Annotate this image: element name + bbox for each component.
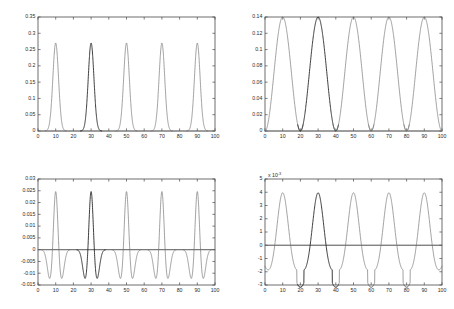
data-curve (77, 192, 105, 279)
y-tick-label: 0.02 (252, 111, 262, 117)
data-curve (183, 192, 211, 279)
y-tick-label: -1 (258, 255, 263, 261)
x-tick-label: 70 (159, 133, 165, 139)
x-tick-label: 10 (53, 287, 59, 293)
x-tick-label: 100 (211, 133, 220, 139)
y-tick-label: 0.025 (22, 187, 35, 193)
x-tick-label: 50 (351, 133, 357, 139)
x-axis: 0102030405060708090100 (37, 17, 220, 139)
y-tick-label: 0.14 (252, 13, 262, 19)
data-curve (151, 43, 172, 131)
y-tick-label: 0.35 (25, 13, 35, 19)
y-tick-label: 0 (33, 246, 36, 252)
y-tick-label: 0.1 (28, 95, 35, 101)
subplot-top-right: 010203040506070809010000.020.040.060.080… (227, 0, 454, 155)
y-tick-label: 0.015 (22, 211, 35, 217)
x-tick-label: 90 (421, 287, 427, 293)
data-series-group (265, 193, 442, 287)
y-axis: -0.015-0.01-0.00500.0050.010.0150.020.02… (21, 175, 215, 287)
axes-frame (265, 179, 442, 285)
y-tick-label: 5 (260, 175, 263, 181)
axes-frame (38, 179, 215, 285)
x-tick-label: 30 (315, 287, 321, 293)
x-tick-label: 80 (404, 133, 410, 139)
x-tick-label: 90 (194, 133, 200, 139)
x-tick-label: 60 (368, 287, 374, 293)
y-tick-label: 4 (260, 189, 263, 195)
x-tick-label: 30 (88, 287, 94, 293)
x-tick-label: 40 (333, 287, 339, 293)
x-tick-label: 70 (386, 287, 392, 293)
plot-top-right: 010203040506070809010000.020.040.060.080… (227, 0, 454, 155)
y-tick-label: 0.2 (28, 62, 35, 68)
data-curve (333, 17, 374, 131)
x-tick-label: 100 (211, 287, 220, 293)
x-tick-label: 20 (71, 133, 77, 139)
y-tick-label: 0.05 (25, 111, 35, 117)
x-tick-label: 50 (124, 287, 130, 293)
y-tick-label: 0.01 (25, 222, 35, 228)
y-tick-label: 0 (33, 127, 36, 133)
plot-bottom-right: 0102030405060708090100-3-2-1012345x 10-3 (227, 155, 454, 309)
y-tick-label: 0.1 (255, 46, 262, 52)
data-curve (265, 193, 303, 287)
data-series-group (265, 17, 442, 131)
x-tick-label: 60 (141, 287, 147, 293)
data-curve (333, 193, 374, 287)
x-tick-label: 0 (37, 133, 40, 139)
subplot-bottom-left: 0102030405060708090100-0.015-0.01-0.0050… (0, 155, 227, 309)
x-tick-label: 60 (368, 133, 374, 139)
y-tick-label: 0.04 (252, 95, 262, 101)
subplot-top-left: 010203040506070809010000.050.10.150.20.2… (0, 0, 227, 155)
y-tick-label: 0.08 (252, 62, 262, 68)
data-curve (298, 193, 339, 287)
x-tick-label: 50 (124, 133, 130, 139)
axis-exponent-label: x 10-3 (268, 172, 281, 178)
y-tick-label: 0 (260, 127, 263, 133)
x-tick-label: 80 (177, 287, 183, 293)
data-curve (148, 192, 176, 279)
data-series-group (42, 192, 212, 279)
y-axis: 00.050.10.150.20.250.30.35 (25, 13, 215, 133)
data-curve (42, 192, 70, 279)
y-tick-label: -0.005 (21, 258, 36, 264)
x-tick-label: 70 (386, 133, 392, 139)
data-curve (45, 43, 66, 131)
data-curve (298, 17, 339, 131)
axes-frame (38, 17, 215, 131)
x-tick-label: 90 (421, 133, 427, 139)
x-tick-label: 40 (106, 133, 112, 139)
y-tick-label: 0.005 (22, 234, 35, 240)
y-tick-label: -0.01 (24, 270, 36, 276)
data-curve (404, 17, 442, 131)
y-tick-label: 2 (260, 215, 263, 221)
y-axis: -3-2-1012345 (258, 175, 442, 287)
y-tick-label: 0.06 (252, 79, 262, 85)
data-curve (80, 43, 101, 131)
x-tick-label: 90 (194, 287, 200, 293)
data-curve (369, 193, 410, 287)
x-tick-label: 0 (37, 287, 40, 293)
y-tick-label: 3 (260, 202, 263, 208)
y-tick-label: -0.015 (21, 281, 36, 287)
y-tick-label: 0 (260, 242, 263, 248)
data-curve (265, 17, 303, 131)
x-tick-label: 80 (404, 287, 410, 293)
y-tick-label: 0.02 (25, 199, 35, 205)
data-series-group (45, 43, 208, 131)
subplot-bottom-right: 0102030405060708090100-3-2-1012345x 10-3 (227, 155, 454, 309)
y-tick-label: 0.15 (25, 79, 35, 85)
x-tick-label: 20 (71, 287, 77, 293)
y-axis: 00.020.040.060.080.10.120.14 (252, 13, 442, 133)
x-tick-label: 70 (159, 287, 165, 293)
x-tick-label: 0 (264, 287, 267, 293)
plot-bottom-left: 0102030405060708090100-0.015-0.01-0.0050… (0, 155, 227, 309)
x-tick-label: 20 (298, 287, 304, 293)
x-tick-label: 30 (88, 133, 94, 139)
x-tick-label: 20 (298, 133, 304, 139)
x-tick-label: 30 (315, 133, 321, 139)
x-tick-label: 0 (264, 133, 267, 139)
y-tick-label: 0.03 (25, 175, 35, 181)
y-tick-label: -2 (258, 268, 263, 274)
x-tick-label: 60 (141, 133, 147, 139)
